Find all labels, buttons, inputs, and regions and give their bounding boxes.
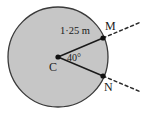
point-marker-n [100, 73, 105, 78]
center-label-c: C [49, 60, 57, 74]
diagram-canvas: 1·25 m 40° C M N [0, 0, 144, 113]
radius-length-label: 1·25 m [60, 25, 90, 36]
point-label-n: N [104, 80, 113, 94]
angle-label: 40° [67, 52, 81, 63]
circle-sector-diagram: 1·25 m 40° C M N [0, 0, 144, 113]
point-marker-m [100, 35, 105, 40]
point-label-m: M [105, 19, 116, 33]
center-point-marker [55, 54, 60, 59]
